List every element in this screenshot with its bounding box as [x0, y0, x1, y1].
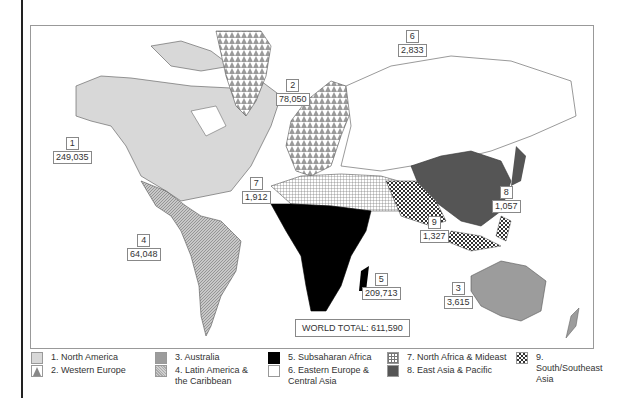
legend-item-eastern-europe-central-asia: 6. Eastern Europe & Central Asia: [268, 365, 369, 387]
legend-swatch-medium-gray: [155, 352, 167, 364]
legend-swatch-checker: [516, 352, 528, 364]
callout-eastern-europe-central-asia: 6 2,833: [398, 30, 427, 57]
legend-item-south-southeast-asia: 9. South/Southeast Asia: [516, 352, 610, 385]
legend-item-latin-america: 4. Latin America & the Caribbean: [155, 365, 248, 387]
page-margin-line: [21, 0, 23, 398]
map-legend: 1. North America 2. Western Europe 3. Au…: [30, 350, 610, 390]
legend-swatch-triangle-icon: [31, 365, 43, 377]
legend-swatch-diagonal-hatch: [155, 365, 167, 377]
callout-east-asia-pacific: 8 1,057: [492, 186, 521, 213]
legend-swatch-black: [268, 352, 280, 364]
legend-swatch-white: [268, 365, 280, 377]
callout-australia: 3 3,615: [444, 282, 473, 309]
callout-north-america: 1 249,035: [53, 137, 92, 164]
region-subsaharan-africa: [271, 204, 371, 311]
legend-item-australia: 3. Australia: [155, 352, 220, 364]
region-australia: [471, 261, 546, 321]
callout-north-africa-mideast: 7 1,912: [242, 177, 271, 204]
legend-swatch-light-gray: [31, 352, 43, 364]
legend-item-north-africa-mideast: 7. North Africa & Mideast: [387, 352, 507, 364]
legend-swatch-dark-gray: [387, 365, 399, 377]
legend-item-east-asia-pacific: 8. East Asia & Pacific: [387, 365, 492, 377]
callout-subsaharan-africa: 5 209,713: [362, 273, 401, 300]
legend-item-north-america: 1. North America: [31, 352, 118, 364]
callout-latin-america: 4 64,048: [127, 234, 161, 261]
legend-item-subsaharan-africa: 5. Subsaharan Africa: [268, 352, 372, 364]
legend-swatch-grid: [387, 352, 399, 364]
legend-item-western-europe: 2. Western Europe: [31, 365, 126, 377]
world-total-label: WORLD TOTAL: 611,590: [295, 319, 410, 337]
callout-south-southeast-asia: 9 1,327: [420, 216, 449, 243]
callout-western-europe: 2 78,050: [276, 79, 310, 106]
